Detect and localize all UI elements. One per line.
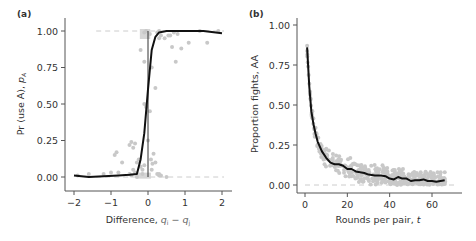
x-tick-label: 40 (384, 199, 396, 210)
x-tick-label: −1 (104, 197, 118, 208)
data-point (174, 60, 178, 64)
data-point (390, 169, 394, 173)
data-point (407, 172, 411, 176)
data-point (140, 172, 144, 176)
data-point (168, 33, 172, 37)
data-point (87, 172, 91, 176)
x-tick-label: 1 (182, 197, 188, 208)
data-point (362, 176, 366, 180)
data-point (425, 183, 429, 187)
data-point (399, 183, 403, 187)
y-tick-label: 1.00 (37, 26, 58, 37)
data-point (142, 163, 146, 167)
y-tick-label: 0.50 (269, 100, 290, 111)
data-point (152, 152, 156, 156)
data-point (381, 163, 385, 167)
data-point (129, 140, 133, 144)
data-point (159, 174, 163, 178)
data-point (385, 172, 389, 176)
data-point (334, 153, 338, 157)
data-point (165, 175, 169, 179)
y-tick-label: 0.50 (37, 99, 58, 110)
x-tick-label: 60 (426, 199, 438, 210)
data-point (179, 47, 183, 51)
x-axis-label: Rounds per pair, t (336, 214, 422, 225)
data-point (367, 168, 371, 172)
data-point (142, 60, 146, 64)
data-point (187, 41, 191, 45)
data-point (323, 162, 327, 166)
data-point (131, 146, 135, 150)
panel-a: (a)0.000.250.500.751.00−2−1012Difference… (15, 9, 232, 227)
data-point (140, 168, 144, 172)
data-point (133, 141, 137, 145)
data-point (383, 167, 387, 171)
data-point (369, 164, 373, 168)
data-point (327, 148, 331, 152)
x-tick-label: 0 (302, 199, 308, 210)
y-tick-label: 0.25 (37, 135, 58, 146)
data-point (131, 168, 135, 172)
data-point (401, 171, 405, 175)
data-point (374, 182, 378, 186)
data-point (353, 162, 357, 166)
y-tick-label: 0.00 (269, 180, 290, 191)
data-point (120, 160, 124, 164)
fit-curve (307, 47, 445, 181)
data-point (150, 168, 154, 172)
data-point (159, 33, 163, 37)
data-point (337, 160, 341, 164)
data-point (404, 181, 408, 185)
data-point (393, 181, 397, 185)
data-point (373, 163, 377, 167)
data-point (139, 48, 143, 52)
y-tick-label: 0.25 (269, 140, 290, 151)
data-point (153, 160, 157, 164)
data-point (388, 180, 392, 184)
data-point (412, 171, 416, 175)
data-point (374, 179, 378, 183)
data-point (163, 36, 167, 40)
panel-b: (b)0.000.250.500.751.000204060Rounds per… (249, 9, 462, 225)
data-point (149, 157, 153, 161)
data-point (346, 157, 350, 161)
x-tick-label: 20 (341, 199, 353, 210)
x-axis-label: Difference, qi − qj (106, 214, 191, 227)
data-point (135, 175, 139, 179)
y-axis-label: Pr (use A), pA (15, 73, 27, 135)
y-tick-label: 1.00 (269, 20, 290, 31)
data-point (349, 164, 353, 168)
data-point (330, 157, 334, 161)
data-point (383, 180, 387, 184)
figure: (a)0.000.250.500.751.00−2−1012Difference… (0, 0, 476, 241)
data-point (366, 178, 370, 182)
data-point (401, 167, 405, 171)
data-point (344, 174, 348, 178)
data-point (348, 172, 352, 176)
y-tick-label: 0.00 (37, 172, 58, 183)
y-tick-label: 0.75 (37, 62, 58, 73)
panel-label: (a) (17, 9, 31, 19)
data-point (359, 167, 363, 171)
data-point (379, 176, 383, 180)
data-point (109, 171, 113, 175)
data-point (305, 44, 309, 48)
data-point (336, 169, 340, 173)
data-point (170, 45, 174, 49)
data-point (436, 174, 440, 178)
x-tick-label: −2 (67, 197, 81, 208)
data-point (369, 182, 373, 186)
data-point (115, 150, 119, 154)
data-point (153, 86, 157, 90)
data-point (416, 173, 420, 177)
data-point (116, 171, 120, 175)
data-point (439, 170, 443, 174)
x-tick-label: 2 (219, 197, 225, 208)
data-point (358, 178, 362, 182)
data-point (176, 32, 180, 36)
data-point (353, 177, 357, 181)
data-point (359, 164, 363, 168)
panel-label: (b) (249, 9, 264, 19)
y-tick-label: 0.75 (269, 60, 290, 71)
data-point (374, 167, 378, 171)
